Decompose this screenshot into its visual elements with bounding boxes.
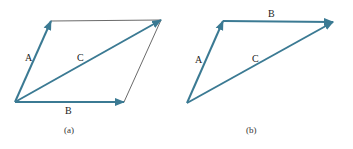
label-c: C xyxy=(77,52,84,63)
label-a: A xyxy=(25,52,33,63)
label-a: A xyxy=(195,54,203,65)
label-b: B xyxy=(268,8,275,19)
vector-addition-diagram: A C B (a) A B C (b) xyxy=(0,0,353,149)
parallelogram-top-edge xyxy=(51,20,161,21)
vector-c xyxy=(15,20,161,102)
caption-b: (b) xyxy=(246,125,257,135)
vector-a xyxy=(15,21,51,102)
vector-a xyxy=(187,21,223,103)
panel-a: A C B (a) xyxy=(15,20,161,135)
parallelogram-right-edge xyxy=(124,20,161,102)
vector-c xyxy=(187,22,333,103)
caption-a: (a) xyxy=(64,125,74,135)
panel-b: A B C (b) xyxy=(187,8,333,135)
label-b: B xyxy=(65,105,72,116)
label-c: C xyxy=(252,53,259,64)
vector-b xyxy=(223,21,333,22)
